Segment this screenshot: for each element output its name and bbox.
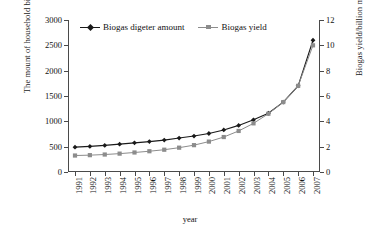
data-point-marker: [132, 150, 136, 154]
legend-item[interactable]: Biogas yield: [198, 22, 266, 32]
x-axis-tick: [149, 172, 150, 176]
data-point-marker: [147, 139, 152, 144]
data-point-marker: [206, 131, 211, 136]
data-point-marker: [222, 135, 226, 139]
x-axis-tick: [298, 172, 299, 176]
data-point-marker: [266, 112, 270, 116]
legend-diamond-marker-icon: [86, 23, 93, 30]
x-axis-tick: [239, 172, 240, 176]
data-point-marker: [132, 140, 137, 145]
y-axis-right-tick-label: 4: [326, 116, 330, 126]
x-axis-tick: [75, 172, 76, 176]
x-axis-tick-label: 1993: [103, 177, 113, 194]
y-axis-right-tick: [320, 121, 324, 122]
y-axis-left-title: The mount of household biogas digester: [22, 0, 32, 108]
x-axis-tick-label: 1999: [193, 177, 203, 194]
x-axis-tick-label: 1991: [74, 177, 84, 194]
y-axis-left-tick-label: 500: [49, 142, 62, 152]
x-axis-tick-label: 1998: [178, 177, 188, 194]
y-axis-left-tick-label: 1000: [45, 116, 62, 126]
y-axis-right-tick: [320, 172, 324, 173]
x-axis-tick: [209, 172, 210, 176]
y-axis-left-tick-label: 0: [58, 167, 62, 177]
x-axis-tick-label: 2006: [297, 177, 307, 194]
y-axis-right-tick: [320, 45, 324, 46]
y-axis-right-tick: [320, 147, 324, 148]
legend-line-swatch: [80, 27, 100, 28]
data-point-marker: [177, 146, 181, 150]
data-point-marker: [311, 43, 315, 47]
y-axis-right-tick-label: 6: [326, 91, 330, 101]
data-point-marker: [311, 38, 316, 43]
y-axis-left-tick-label: 2000: [45, 66, 62, 76]
y-axis-right-tick: [320, 96, 324, 97]
series-layer: [68, 20, 320, 172]
x-axis-tick-label: 1996: [148, 177, 158, 194]
data-point-marker: [103, 152, 107, 156]
y-axis-left-title-wrap: The mount of household biogas digester: [2, 18, 16, 168]
data-point-marker: [296, 84, 300, 88]
data-point-marker: [162, 148, 166, 152]
x-axis-tick: [194, 172, 195, 176]
y-axis-left-tick: [64, 172, 68, 173]
y-axis-right-title-wrap: Biogas yield/billion m3: [352, 30, 366, 170]
data-point-marker: [221, 128, 226, 133]
x-axis-tick: [268, 172, 269, 176]
x-axis-tick-label: 2001: [222, 177, 232, 194]
chart-figure: The mount of household biogas digester B…: [0, 0, 380, 234]
data-point-marker: [117, 142, 122, 147]
data-point-marker: [73, 145, 78, 150]
x-axis-tick: [90, 172, 91, 176]
y-axis-right-tick: [320, 20, 324, 21]
y-axis-right-title: Biogas yield/billion m3: [354, 0, 365, 105]
legend-label: Biogas digeter amount: [103, 22, 184, 32]
y-axis-right-tick-label: 10: [326, 40, 335, 50]
data-point-marker: [73, 153, 77, 157]
data-point-marker: [192, 134, 197, 139]
x-axis-tick: [120, 172, 121, 176]
x-axis-tick: [313, 172, 314, 176]
legend-line-swatch: [198, 27, 218, 28]
chart-legend: Biogas digeter amountBiogas yield: [80, 22, 267, 32]
data-point-marker: [87, 144, 92, 149]
x-axis-tick-label: 2005: [282, 177, 292, 194]
y-axis-left-tick-label: 3000: [45, 15, 62, 25]
y-axis-right-title-text: Biogas yield/billion m: [354, 0, 364, 76]
data-point-marker: [147, 149, 151, 153]
y-axis-right-tick-label: 8: [326, 66, 330, 76]
series-line: [75, 45, 313, 155]
x-axis-tick: [283, 172, 284, 176]
legend-square-marker-icon: [206, 25, 210, 29]
data-point-marker: [102, 143, 107, 148]
x-axis-tick-label: 1995: [133, 177, 143, 194]
legend-item[interactable]: Biogas digeter amount: [80, 22, 184, 32]
x-axis-tick-label: 2007: [312, 177, 322, 194]
x-axis-tick-label: 2004: [267, 177, 277, 194]
x-axis-tick-label: 2002: [237, 177, 247, 194]
x-axis-tick: [105, 172, 106, 176]
data-point-marker: [177, 136, 182, 141]
data-point-marker: [192, 143, 196, 147]
x-axis-tick-label: 2003: [252, 177, 262, 194]
data-point-marker: [207, 140, 211, 144]
data-point-marker: [281, 100, 285, 104]
x-axis-tick-label: 2000: [207, 177, 217, 194]
data-point-marker: [88, 153, 92, 157]
legend-label: Biogas yield: [221, 22, 266, 32]
data-point-marker: [118, 152, 122, 156]
x-axis-tick-label: 1997: [163, 177, 173, 194]
x-axis-tick-label: 1994: [118, 177, 128, 194]
y-axis-right-tick-label: 12: [326, 15, 335, 25]
x-axis-tick: [164, 172, 165, 176]
data-point-marker: [251, 121, 255, 125]
plot-area: 050010001500200025003000 024681012 19911…: [68, 20, 320, 172]
series-line: [75, 40, 313, 147]
y-axis-left-tick-label: 2500: [45, 40, 62, 50]
x-axis-title: year: [0, 214, 380, 224]
y-axis-right-tick-label: 0: [326, 167, 330, 177]
y-axis-left-tick-label: 1500: [45, 91, 62, 101]
y-axis-right-tick-label: 2: [326, 142, 330, 152]
data-point-marker: [236, 123, 241, 128]
x-axis-tick: [135, 172, 136, 176]
x-axis-tick: [254, 172, 255, 176]
